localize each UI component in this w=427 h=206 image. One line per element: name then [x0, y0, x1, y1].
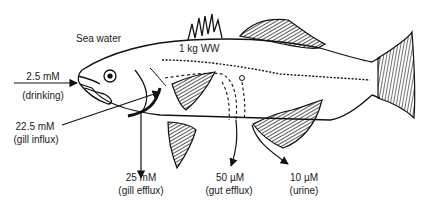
urinary-pore — [240, 76, 245, 81]
gill-influx-label: (gill influx) — [10, 134, 62, 146]
drinking-label: (drinking) — [18, 90, 68, 102]
gut-efflux-label: (gut efflux) — [199, 185, 259, 197]
spiny-dorsal-fin — [188, 14, 222, 40]
tail-fin — [378, 32, 415, 118]
urine-value: 10 µM — [284, 172, 324, 184]
gill-efflux-value: 25 mM — [116, 172, 166, 184]
pelvic-fin — [168, 122, 196, 168]
pupil — [107, 73, 112, 78]
sea-water-label: Sea water — [76, 33, 121, 45]
drinking-value: 2.5 mM — [20, 71, 66, 83]
urine-label: (urine) — [284, 185, 324, 197]
gut-efflux-value: 50 µM — [205, 172, 255, 184]
gut-efflux-arrow — [231, 120, 237, 166]
gill-efflux-label: (gill efflux) — [114, 185, 168, 197]
pectoral-fin — [172, 72, 215, 110]
soft-dorsal-fin — [240, 20, 325, 49]
anal-fin — [253, 100, 322, 148]
fish-outline — [82, 39, 380, 120]
gill-influx-value: 22.5 mM — [10, 121, 60, 133]
body-weight-label: 1 kg WW — [179, 43, 220, 55]
gill-arch — [128, 88, 160, 116]
